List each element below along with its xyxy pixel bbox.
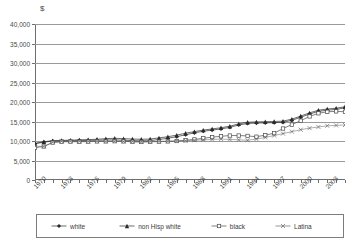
y-tick-label: 35,000 <box>10 40 30 47</box>
data-point-open-square <box>246 134 249 137</box>
x-tick-mark <box>159 180 160 183</box>
series-line <box>35 108 345 144</box>
legend-label: Latina <box>294 223 312 230</box>
data-point-open-square <box>343 110 345 113</box>
legend-entry[interactable]: white <box>51 222 85 230</box>
x-tick-mark <box>186 180 187 183</box>
legend-entry[interactable]: black <box>211 222 245 230</box>
data-point-open-square <box>217 224 220 227</box>
data-point-open-square <box>308 115 311 118</box>
x-tick-mark <box>318 180 319 183</box>
series-black <box>35 110 345 150</box>
series-non-hisp-white <box>35 104 345 145</box>
legend-label: non Hisp white <box>138 223 181 230</box>
legend-marker-cross-x-icon <box>275 222 291 230</box>
data-point-filled-triangle <box>299 114 303 118</box>
data-point-open-square <box>317 112 320 115</box>
x-tick-mark <box>53 180 54 183</box>
data-point-open-square <box>334 110 337 113</box>
series-line <box>35 107 345 144</box>
legend-marker-open-square-icon <box>211 222 227 230</box>
legend-marker-filled-triangle-icon <box>119 222 135 230</box>
y-tick-label: 40,000 <box>10 21 30 28</box>
series-latina <box>35 123 345 148</box>
legend-marker-filled-diamond-icon <box>51 222 67 230</box>
y-tick-label: 25,000 <box>10 79 30 86</box>
data-point-open-square <box>326 110 329 113</box>
data-point-open-square <box>281 127 284 130</box>
data-point-cross-x <box>281 132 285 136</box>
x-tick-mark <box>106 180 107 183</box>
data-point-cross-x <box>290 130 294 134</box>
y-tick-label: 10,000 <box>10 138 30 145</box>
series-line <box>35 125 345 146</box>
series-plot <box>35 24 345 180</box>
data-point-open-square <box>237 134 240 137</box>
data-point-open-square <box>299 119 302 122</box>
legend-label: black <box>230 223 245 230</box>
y-tick-label: 0 <box>26 177 30 184</box>
y-tick-label: 5,000 <box>14 157 30 164</box>
legend-label: white <box>70 223 85 230</box>
x-tick-mark <box>239 180 240 183</box>
x-tick-mark <box>345 180 346 183</box>
y-axis-unit-label: $ <box>40 4 44 13</box>
legend: whitenon Hisp whiteblackLatina <box>36 214 344 238</box>
y-tick-label: 20,000 <box>10 99 30 106</box>
x-tick-mark <box>292 180 293 183</box>
y-tick-label: 30,000 <box>10 60 30 67</box>
data-point-open-square <box>290 123 293 126</box>
data-point-filled-diamond <box>57 224 61 228</box>
y-tick-label: 15,000 <box>10 118 30 125</box>
plot-area: 05,00010,00015,00020,00025,00030,00035,0… <box>35 24 345 180</box>
x-tick-mark <box>212 180 213 183</box>
line-chart: $ 05,00010,00015,00020,00025,00030,00035… <box>0 0 354 242</box>
legend-entry[interactable]: non Hisp white <box>119 222 181 230</box>
x-tick-mark <box>79 180 80 183</box>
data-point-open-square <box>228 134 231 137</box>
x-tick-mark <box>265 180 266 183</box>
x-tick-mark <box>132 180 133 183</box>
legend-entry[interactable]: Latina <box>275 222 312 230</box>
